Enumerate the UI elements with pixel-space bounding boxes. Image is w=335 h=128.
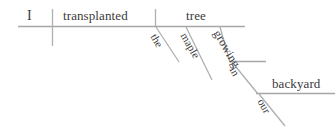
word-subject: I [27, 9, 32, 23]
diagram-line-layer [0, 0, 335, 128]
sentence-diagram: I transplanted tree the maple growing in… [0, 0, 335, 128]
word-verb: transplanted [63, 9, 128, 22]
word-prep-object: backyard [272, 77, 320, 90]
word-object: tree [186, 9, 206, 22]
